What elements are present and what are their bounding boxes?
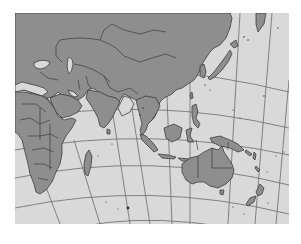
island-dot <box>239 117 240 118</box>
island-dot <box>111 143 112 144</box>
island-dot <box>139 114 140 115</box>
island-dot <box>243 36 245 38</box>
island-dot <box>117 208 118 209</box>
island-dot <box>283 151 284 152</box>
world-map[interactable] <box>15 13 289 224</box>
island-dot <box>247 39 248 40</box>
island-dot <box>97 155 98 156</box>
island-dot <box>232 109 233 110</box>
island-dot <box>232 206 233 207</box>
island-dot <box>275 155 276 156</box>
island-dot <box>243 213 244 214</box>
tasmania[interactable] <box>220 190 224 195</box>
island-dot <box>127 207 130 210</box>
island-dot <box>277 27 278 28</box>
island-dot <box>105 201 106 202</box>
map-frame[interactable] <box>15 13 289 224</box>
island-dot <box>266 171 267 172</box>
island-dot <box>267 202 268 203</box>
sri-lanka[interactable] <box>107 129 110 134</box>
vanuatu[interactable] <box>253 152 256 160</box>
island-dot <box>204 84 205 85</box>
island-dot <box>263 95 264 96</box>
island-dot <box>142 107 144 109</box>
island-dot <box>209 89 210 90</box>
